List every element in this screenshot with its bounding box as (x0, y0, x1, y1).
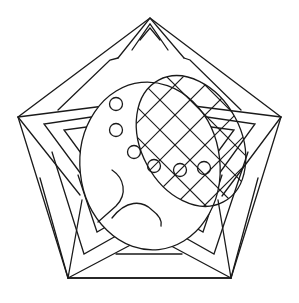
large-oval (72, 75, 229, 257)
pentagon-star-drawing (0, 0, 299, 303)
